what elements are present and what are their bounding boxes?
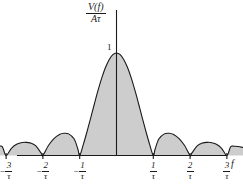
tick-label-denominator: τ xyxy=(6,172,11,182)
tick-label-numerator: 3 xyxy=(224,161,231,171)
tick-label-fraction: 2τ xyxy=(187,161,194,181)
spectrum-curve-fill xyxy=(0,53,243,156)
tick-label-fraction: 1τ xyxy=(150,161,157,181)
tick-label-fraction: 3τ xyxy=(5,161,12,181)
tick-label-fraction: 2τ xyxy=(42,161,49,181)
sinc-spectrum-figure: V(f) Aτ 1 f −3τ−2τ−1τ1τ2τ3τ xyxy=(0,0,243,187)
y-axis-caption-denominator: Aτ xyxy=(89,14,103,25)
tick-label-denominator: τ xyxy=(187,172,192,182)
tick-label-numerator: 3 xyxy=(6,161,13,171)
tick-label-denominator: τ xyxy=(151,172,156,182)
tick-label-fraction: 3τ xyxy=(223,161,230,181)
spectrum-chart xyxy=(0,0,243,187)
tick-label-denominator: τ xyxy=(224,172,229,182)
tick-label-numerator: 1 xyxy=(79,161,86,171)
x-axis-tick-label: −1τ xyxy=(71,161,89,181)
x-axis-tick-label: 1τ xyxy=(144,161,162,181)
tick-label-sign: − xyxy=(37,167,42,176)
tick-label-numerator: 1 xyxy=(150,161,157,171)
tick-label-sign: − xyxy=(73,167,78,176)
y-axis-caption-fraction: V(f) Aτ xyxy=(86,2,106,24)
x-axis-tick-label: 2τ xyxy=(181,161,199,181)
tick-label-sign: − xyxy=(0,167,5,176)
peak-value-label: 1 xyxy=(107,43,112,52)
tick-label-numerator: 2 xyxy=(42,161,49,171)
tick-label-denominator: τ xyxy=(43,172,48,182)
y-axis-caption: V(f) Aτ xyxy=(86,2,106,24)
tick-label-denominator: τ xyxy=(80,172,85,182)
y-axis-caption-numerator: V(f) xyxy=(86,2,106,13)
tick-label-numerator: 2 xyxy=(187,161,194,171)
tick-label-fraction: 1τ xyxy=(79,161,86,181)
x-axis-tick-label: −2τ xyxy=(34,161,52,181)
x-axis-tick-label: −3τ xyxy=(0,161,15,181)
x-axis-tick-label: 3τ xyxy=(218,161,236,181)
